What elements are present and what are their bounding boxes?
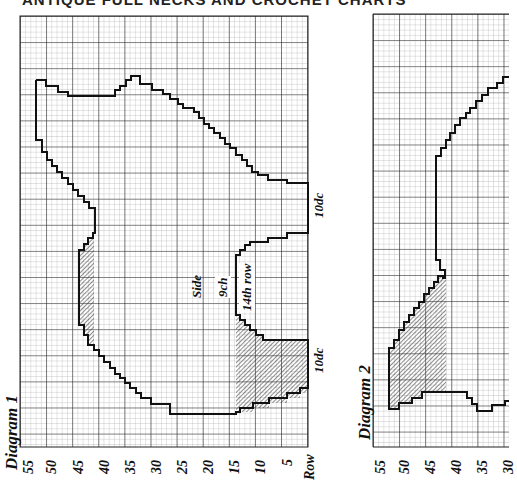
tick-50: 50 [44, 460, 60, 474]
row-axis-label: Row [302, 454, 318, 480]
tick-35: 35 [123, 460, 139, 474]
d2-tick-35: 35 [475, 460, 491, 474]
tick-5: 5 [280, 459, 296, 466]
tick-20: 20 [201, 460, 217, 474]
d2-tick-55: 55 [373, 460, 389, 474]
tick-45: 45 [71, 460, 87, 474]
tick-15: 15 [227, 460, 243, 474]
tick-40: 40 [97, 460, 113, 474]
tick-55: 55 [21, 460, 37, 474]
diagram2-label: Diagram 2 [355, 365, 375, 440]
row-marker-label: 14th row [239, 263, 255, 312]
bottom-dc-label: 10dc [311, 348, 327, 373]
d2-tick-45: 45 [423, 460, 439, 474]
d2-tick-40: 40 [449, 460, 465, 474]
d2-tick-50: 50 [397, 460, 413, 474]
tick-10: 10 [253, 460, 269, 474]
tick-30: 30 [149, 460, 165, 474]
d2-tick-30: 30 [501, 460, 517, 474]
chain-label: 9ch [215, 277, 231, 299]
top-dc-label: 10dc [311, 193, 327, 218]
tick-25: 25 [175, 460, 191, 474]
side-label: Side [189, 275, 205, 298]
diagram1-label: Diagram 1 [2, 395, 22, 470]
